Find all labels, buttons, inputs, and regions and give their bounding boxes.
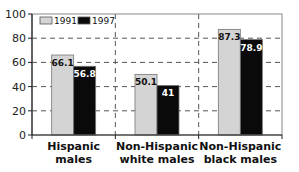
- data-label-1991-1: 50.1: [135, 77, 157, 87]
- y-tick-label-0: 0: [19, 129, 26, 142]
- legend-label-1991: 1991: [54, 16, 77, 26]
- y-tick-label-100: 100: [5, 8, 26, 21]
- category-label-0-line-1: males: [55, 153, 92, 166]
- bar-1991-2: [218, 29, 240, 135]
- legend-swatch-1997: [78, 17, 90, 24]
- x-axis: HispanicmalesNon-Hispanicwhite malesNon-…: [32, 135, 282, 166]
- data-label-1997-1: 41: [162, 88, 175, 98]
- data-label-1997-2: 78.9: [240, 43, 262, 53]
- category-label-1-line-0: Non-Hispanic: [116, 140, 198, 153]
- data-label-1997-0: 56.8: [74, 69, 96, 79]
- y-tick-label-60: 60: [12, 56, 26, 69]
- legend-label-1997: 1997: [92, 16, 115, 26]
- data-label-1991-2: 87.3: [218, 32, 240, 42]
- category-label-2-line-0: Non-Hispanic: [199, 140, 281, 153]
- legend: 19911997: [40, 16, 115, 26]
- y-tick-label-40: 40: [12, 81, 26, 94]
- category-label-0-line-0: Hispanic: [47, 140, 100, 153]
- bars: 66.156.850.14187.378.9: [52, 29, 263, 135]
- bar-1997-2: [240, 40, 262, 135]
- legend-swatch-1991: [40, 17, 52, 24]
- data-label-1991-0: 66.1: [52, 58, 74, 68]
- bar-chart: 66.156.850.14187.378.9 020406080100 Hisp…: [0, 0, 299, 172]
- category-label-1-line-1: white males: [120, 153, 195, 166]
- y-tick-label-20: 20: [12, 105, 26, 118]
- y-axis: 020406080100: [5, 8, 32, 142]
- y-tick-label-80: 80: [12, 32, 26, 45]
- category-label-2-line-1: black males: [204, 153, 278, 166]
